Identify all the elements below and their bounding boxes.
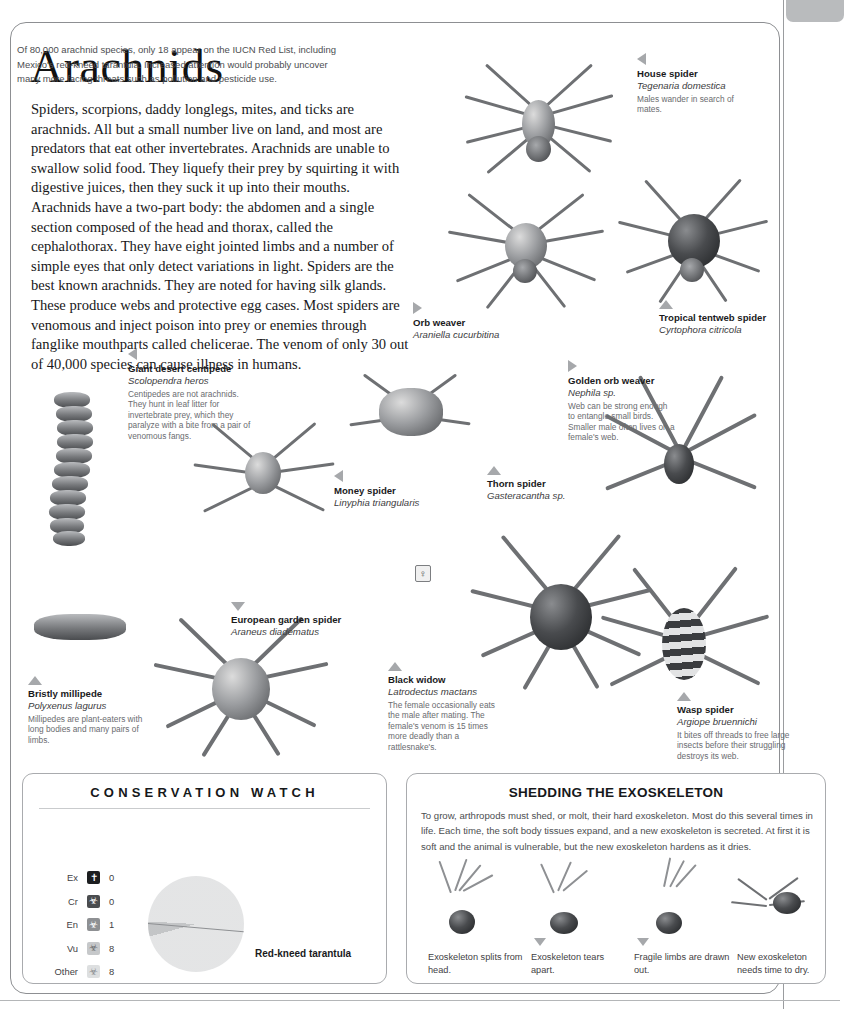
callout-money-spider: Money spider Linyphia triangularis	[334, 470, 464, 510]
callout-description: Millipedes are plant-eaters with long bo…	[28, 714, 156, 746]
callout-name: Tropical tentweb spider	[659, 312, 809, 324]
pointer-triangle-icon	[334, 470, 343, 482]
exoskeleton-step-caption: Exoskeleton tears apart.	[531, 951, 627, 976]
iucn-row: En ☣ 1	[36, 913, 114, 937]
caution-icon: ☣	[87, 942, 100, 955]
callout-scientific-name: Nephila sp.	[568, 387, 676, 400]
callout-name: Golden orb weaver	[568, 375, 676, 387]
callout-scientific-name: Scolopendra heros	[128, 375, 253, 388]
conservation-divider	[39, 808, 370, 809]
pointer-triangle-icon	[231, 602, 245, 611]
iucn-label: Cr	[36, 896, 78, 907]
iucn-count: 8	[109, 943, 114, 954]
iucn-label: Ex	[36, 872, 78, 883]
iucn-row: Other ☣ 8	[36, 960, 114, 984]
tarantula-caption: Red-kneed tarantula	[255, 948, 351, 959]
pointer-triangle-icon	[637, 53, 646, 65]
callout-scientific-name: Polyxenus lagurus	[28, 700, 156, 713]
iucn-count: 0	[109, 872, 114, 883]
shedding-exoskeleton-text: To grow, arthropods must shed, or molt, …	[421, 808, 813, 854]
iucn-count: 1	[109, 919, 114, 930]
iucn-count: 0	[109, 896, 114, 907]
callout-giant-desert-centipede: Giant desert centipede Scolopendra heros…	[128, 348, 253, 441]
iucn-row: Cr ☣ 0	[36, 890, 114, 914]
callout-name: Bristly millipede	[28, 688, 156, 700]
callout-scientific-name: Araneus diadematus	[231, 626, 381, 639]
callout-scientific-name: Araniella cucurbitina	[413, 329, 553, 342]
exoskeleton-step-caption: Exoskeleton splits from head.	[428, 951, 524, 976]
pointer-triangle-icon	[388, 662, 402, 671]
pointer-triangle-icon	[28, 676, 42, 685]
callout-name: Wasp spider	[677, 704, 799, 716]
iucn-label: Other	[36, 966, 78, 977]
callout-european-garden-spider: European garden spider Araneus diadematu…	[231, 602, 381, 639]
callout-description: The female occasionally eats the male af…	[388, 700, 506, 753]
conservation-watch-title: CONSERVATION WATCH	[23, 785, 386, 800]
iucn-label: En	[36, 919, 78, 930]
iucn-row: Ex ✝ 0	[36, 866, 114, 890]
other-icon: ☣	[87, 965, 100, 978]
callout-description: It bites off threads to free large insec…	[677, 730, 799, 762]
callout-name: European garden spider	[231, 614, 381, 626]
shedding-exoskeleton-title: SHEDDING THE EXOSKELETON	[407, 785, 825, 800]
bottom-margin-rule	[0, 1000, 840, 1001]
callout-description: Web can be strong enough to entangle sma…	[568, 401, 676, 443]
pointer-triangle-icon	[568, 360, 577, 372]
iucn-count: 8	[109, 966, 114, 977]
corner-tab[interactable]	[786, 0, 844, 22]
female-symbol-glyph: ♀	[419, 569, 427, 579]
callout-name: House spider	[637, 68, 757, 80]
iucn-row: Vu ☣ 8	[36, 937, 114, 961]
callout-golden-orb-weaver: Golden orb weaver Nephila sp. Web can be…	[568, 360, 676, 443]
callout-scientific-name: Argiope bruennichi	[677, 716, 799, 729]
callout-name: Black widow	[388, 674, 506, 686]
pointer-triangle-icon	[487, 466, 501, 475]
cross-icon: ✝	[87, 871, 100, 884]
callout-tropical-tentweb-spider: Tropical tentweb spider Cyrtophora citri…	[659, 300, 809, 337]
callout-scientific-name: Cyrtophora citricola	[659, 324, 809, 337]
pointer-triangle-icon	[128, 348, 137, 360]
callout-name: Giant desert centipede	[128, 363, 253, 375]
step-arrow-icon	[534, 938, 546, 946]
callout-scientific-name: Tegenaria domestica	[637, 80, 757, 93]
callout-name: Thorn spider	[487, 478, 607, 490]
pointer-triangle-icon	[659, 300, 673, 309]
callout-name: Orb weaver	[413, 317, 553, 329]
warning-icon: ☣	[87, 918, 100, 931]
skull-icon: ☣	[87, 895, 100, 908]
pointer-triangle-icon	[413, 302, 422, 314]
conservation-watch-text: Of 80,000 arachnid species, only 18 appe…	[17, 43, 342, 87]
callout-wasp-spider: Wasp spider Argiope bruennichi It bites …	[677, 692, 799, 761]
iucn-status-list: Ex ✝ 0 Cr ☣ 0 En ☣ 1 Vu ☣ 8 Other ☣ 8	[36, 866, 114, 984]
callout-description: Centipedes are not arachnids. They hunt …	[128, 389, 253, 442]
callout-description: Males wander in search of mates.	[637, 94, 757, 115]
iucn-label: Vu	[36, 943, 78, 954]
pointer-triangle-icon	[677, 692, 691, 701]
callout-scientific-name: Linyphia triangularis	[334, 497, 464, 510]
intro-paragraph: Spiders, scorpions, daddy longlegs, mite…	[31, 100, 409, 374]
callout-scientific-name: Latrodectus mactans	[388, 686, 506, 699]
callout-scientific-name: Gasteracantha sp.	[487, 490, 607, 503]
callout-black-widow: Black widow Latrodectus mactans The fema…	[388, 662, 506, 752]
female-symbol-badge-icon: ♀	[415, 565, 431, 582]
callout-thorn-spider: Thorn spider Gasteracantha sp.	[487, 466, 607, 503]
callout-house-spider: House spider Tegenaria domestica Males w…	[637, 53, 757, 115]
step-arrow-icon	[637, 938, 649, 946]
exoskeleton-step-caption: Fragile limbs are drawn out.	[634, 951, 730, 976]
exoskeleton-step-caption: New exoskeleton needs time to dry.	[737, 951, 833, 976]
callout-bristly-millipede: Bristly millipede Polyxenus lagurus Mill…	[28, 676, 156, 745]
callout-orb-weaver: Orb weaver Araniella cucurbitina	[413, 302, 553, 342]
callout-name: Money spider	[334, 485, 464, 497]
